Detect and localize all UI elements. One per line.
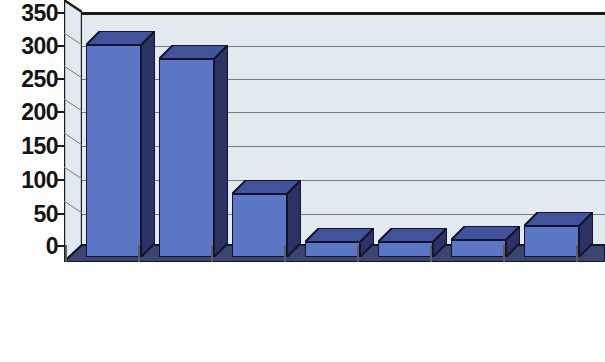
x-tick-mark bbox=[503, 245, 505, 262]
y-tick-mark bbox=[55, 78, 64, 80]
y-axis: 350 300 250 200 150 100 50 0 bbox=[0, 0, 58, 262]
plot-left-wall bbox=[64, 0, 82, 262]
x-tick-mark bbox=[138, 245, 140, 262]
y-tick-label: 0 bbox=[6, 235, 58, 258]
bar-cardiology bbox=[159, 47, 214, 245]
y-tick-label: 100 bbox=[6, 169, 58, 192]
y-tick-label: 50 bbox=[6, 203, 58, 226]
y-tick-label: 300 bbox=[6, 35, 58, 58]
bar-surgery bbox=[451, 228, 506, 245]
x-tick-mark bbox=[430, 245, 432, 262]
bar-prostate bbox=[378, 230, 433, 245]
bar-radiology bbox=[86, 31, 141, 245]
y-tick-label: 150 bbox=[6, 135, 58, 158]
bar-all-others bbox=[524, 214, 579, 245]
y-tick-label: 350 bbox=[6, 2, 58, 25]
y-tick-label: 200 bbox=[6, 101, 58, 124]
x-tick-mark bbox=[284, 245, 286, 262]
y-tick-mark bbox=[55, 245, 64, 247]
x-tick-mark bbox=[576, 245, 578, 262]
y-tick-label: 250 bbox=[6, 68, 58, 91]
y-tick-mark bbox=[55, 213, 64, 215]
plot-area bbox=[64, 0, 605, 262]
y-tick-mark bbox=[55, 179, 64, 181]
bar-chart: 350 300 250 200 150 100 50 0 bbox=[0, 0, 605, 362]
y-tick-mark bbox=[55, 12, 64, 14]
bar-ob-gyn bbox=[232, 182, 287, 245]
y-tick-mark bbox=[55, 111, 64, 113]
y-tick-mark bbox=[55, 45, 64, 47]
bar-vascular bbox=[305, 230, 360, 245]
x-tick-mark bbox=[65, 245, 67, 262]
x-tick-mark bbox=[357, 245, 359, 262]
x-tick-mark bbox=[211, 245, 213, 262]
y-tick-mark bbox=[55, 145, 64, 147]
